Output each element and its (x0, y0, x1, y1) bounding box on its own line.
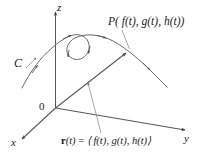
leader-line-vector (88, 83, 101, 133)
vector-equation-label: r(t) = ⟨ f(t), g(t), h(t)⟩ (61, 136, 151, 147)
axis-label-z: z (57, 2, 61, 13)
axis-label-x: x (11, 137, 16, 148)
space-curve-figure: z y x 0 C P( f(t), g(t), h(t)) r(t) = ⟨ … (0, 0, 199, 153)
vector-equals: = (76, 135, 87, 146)
position-vector-arrow (56, 53, 127, 108)
point-label-p: P( f(t), g(t), h(t)) (108, 16, 184, 28)
leader-line-point-p (122, 30, 130, 49)
axis-x (22, 108, 56, 139)
axis-y (56, 108, 186, 130)
curve-label-c: C (14, 57, 22, 69)
vector-argument: (t) (66, 135, 76, 146)
axis-label-y: y (184, 133, 189, 144)
space-curve-path (22, 35, 167, 88)
origin-label: 0 (39, 101, 45, 112)
vector-components: ⟨ f(t), g(t), h(t)⟩ (87, 135, 151, 146)
